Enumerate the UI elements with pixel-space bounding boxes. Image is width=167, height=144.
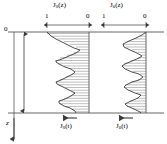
panel-right-scale	[104, 22, 146, 28]
panel-left-tick-one: 1	[45, 13, 49, 20]
bessel-depth-figure: J0(z) Jθ(z) 1 0 1 0 0 z J0(t) Jθ(t)	[0, 0, 167, 144]
panel-right-bottom-label: Jθ(t)	[116, 123, 128, 130]
panel-left-bottom-label-arg: (t)	[65, 122, 72, 130]
panel-left-tick-zero: 0	[86, 13, 90, 20]
panel-left-scale	[47, 22, 89, 28]
depth-axis-label: z	[6, 120, 9, 127]
panel-left-top-label-arg: (z)	[58, 1, 66, 9]
panel-right-top-label: Jθ(z)	[110, 2, 123, 9]
panel-right-top-label-arg: (z)	[115, 1, 123, 9]
panel-right-tick-zero: 0	[143, 13, 147, 20]
panel-left-bottom-label: J0(t)	[60, 123, 72, 130]
figure-canvas	[0, 0, 167, 144]
origin-label: 0	[4, 26, 8, 33]
panel-left-top-label: J0(z)	[53, 2, 66, 9]
panel-right-tick-one: 1	[102, 13, 106, 20]
panel-right-bottom-label-arg: (t)	[121, 122, 128, 130]
